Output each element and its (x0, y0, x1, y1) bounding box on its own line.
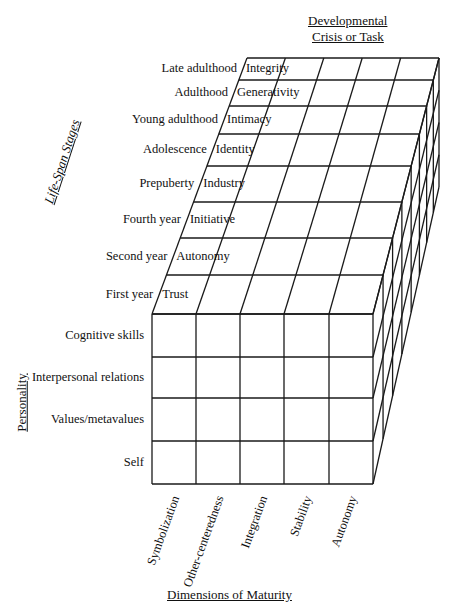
stage-label: Adolescence (143, 143, 207, 156)
stage-label: Prepuberty (139, 177, 194, 190)
stage-label: Adulthood (175, 86, 228, 99)
crisis-label: Trust (162, 288, 188, 301)
personality-title: Personality (15, 373, 28, 432)
crisis-label: Intimacy (227, 113, 271, 126)
dimensions-of-maturity-title: Dimensions of Maturity (167, 588, 292, 601)
crisis-label: Initiative (190, 213, 235, 226)
personality-label: Self (124, 456, 144, 469)
depth-axis-title-line2: Crisis or Task (312, 30, 384, 43)
crisis-label: Identity (216, 143, 255, 156)
stage-label: Late adulthood (162, 62, 237, 75)
crisis-label: Autonomy (176, 250, 229, 263)
crisis-label: Industry (203, 177, 245, 190)
stage-label: Second year (106, 250, 167, 263)
stage-label: Fourth year (123, 213, 181, 226)
depth-axis-title-line1: Developmental (308, 14, 387, 27)
crisis-label: Integrity (246, 62, 289, 75)
personality-label: Cognitive skills (65, 329, 144, 342)
stage-label: First year (106, 288, 154, 301)
crisis-label: Generativity (237, 86, 299, 99)
personality-label: Values/metavalues (51, 413, 144, 426)
personality-label: Interpersonal relations (32, 371, 144, 384)
stage-label: Young adulthood (132, 113, 218, 126)
